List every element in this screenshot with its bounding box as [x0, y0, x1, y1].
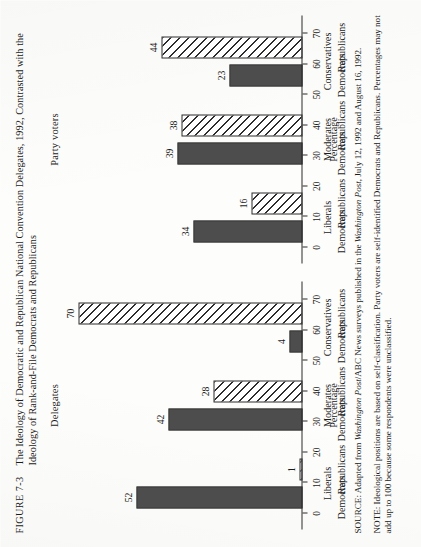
axis-tick	[302, 390, 307, 391]
bar-value-label: 42	[154, 414, 165, 424]
axis-tick-label: 10	[311, 212, 321, 221]
bar-value-label: 44	[147, 42, 158, 52]
bar-democrats-liberals: 52Democrats	[72, 486, 302, 508]
axis-tick	[302, 298, 307, 299]
axis-tick-label: 40	[311, 120, 321, 129]
bar-democrats-moderates: 42Democrats	[72, 408, 302, 430]
bar-value-label: 34	[179, 226, 190, 236]
bar-value-label: 28	[199, 386, 210, 396]
panel-title-party-voters: Party voters	[48, 15, 59, 263]
source-italic-2: Washington Post	[352, 181, 362, 242]
figure-footer: SOURCE: Adapted from Washington Post/ABC…	[352, 13, 401, 533]
bar-rect	[168, 408, 302, 430]
bar-republicans-conservatives: 70Republicans	[72, 302, 302, 324]
source-label: SOURCE:	[352, 495, 362, 533]
bar-rect	[181, 114, 302, 136]
axis-tick-label: 50	[311, 355, 321, 364]
axis-tick-label: 20	[311, 447, 321, 456]
bar-republicans-liberals: 1Republicans	[72, 458, 302, 480]
axis-tick	[302, 481, 307, 482]
panel-title-delegates: Delegates	[48, 281, 59, 529]
bar-value-label: 52	[122, 492, 133, 502]
bar-group-moderates: Moderates39Democrats38Republicans	[72, 106, 302, 172]
source-text-3: , July 12, 1992 and August 16, 1992.	[352, 47, 362, 181]
bar-group-conservatives: Conservatives23Democrats44Republicans	[72, 28, 302, 94]
bar-rect	[251, 192, 302, 214]
figure-note: NOTE: Ideological positions are based on…	[371, 13, 394, 533]
axis-tick-label: 70	[311, 294, 321, 303]
axis-line-party-voters	[301, 15, 302, 263]
axis-tick	[302, 420, 307, 421]
axis-tick-label: 60	[311, 59, 321, 68]
bar-democrats-conservatives: 23Democrats	[72, 64, 302, 86]
bar-value-label: 16	[237, 198, 248, 208]
bar-value-label: 1	[285, 467, 296, 472]
axis-tick-label: 50	[311, 89, 321, 98]
source-text-1: Adapted from	[352, 440, 362, 495]
figure-page: FIGURE 7-3The Ideology of Democratic and…	[0, 0, 421, 547]
axis-title-party-voters: Percentage	[327, 15, 338, 263]
axis-tick	[302, 246, 307, 247]
bar-rect	[177, 142, 302, 164]
plot-party-voters: Liberals34Democrats16RepublicansModerate…	[72, 15, 302, 263]
axis-tick	[302, 215, 307, 216]
bar-rect	[289, 330, 302, 352]
axis-title-delegates: Percentage	[327, 281, 338, 529]
axis-tick-label: 20	[311, 181, 321, 190]
bar-value-label: 70	[64, 308, 75, 318]
axis-tick-label: 60	[311, 325, 321, 334]
axis-tick-label: 30	[311, 151, 321, 160]
axis-tick-label: 70	[311, 28, 321, 37]
bar-group-liberals: Liberals52Democrats1Republicans	[72, 450, 302, 516]
figure-source: SOURCE: Adapted from Washington Post/ABC…	[352, 13, 364, 533]
source-italic-1: Washington Post	[352, 379, 362, 440]
bar-rect	[78, 302, 302, 324]
bar-group-moderates: Moderates42Democrats28Republicans	[72, 372, 302, 438]
bar-democrats-moderates: 39Democrats	[72, 142, 302, 164]
axis-tick	[302, 359, 307, 360]
bar-group-liberals: Liberals34Democrats16Republicans	[72, 184, 302, 250]
bar-value-label: 39	[163, 148, 174, 158]
axis-tick	[302, 124, 307, 125]
bar-value-label: 23	[215, 70, 226, 80]
bar-republicans-moderates: 38Republicans	[72, 114, 302, 136]
axis-tick-label: 0	[311, 245, 321, 250]
bar-rect	[161, 36, 302, 58]
bar-rect	[136, 486, 302, 508]
bar-rect	[193, 220, 302, 242]
panel-party-voters: Party voters Liberals34Democrats16Republ…	[48, 15, 348, 263]
axis-tick	[302, 93, 307, 94]
note-text: Ideological positions are based on self-…	[371, 15, 393, 533]
bar-value-label: 4	[275, 339, 286, 344]
bar-republicans-moderates: 28Republicans	[72, 380, 302, 402]
bar-rect	[229, 64, 302, 86]
axis-tick	[302, 154, 307, 155]
source-text-2: /ABC News surveys published in the	[352, 242, 362, 379]
axis-tick-label: 0	[311, 511, 321, 516]
figure-number: FIGURE 7-3	[13, 476, 24, 533]
figure-caption-text: The Ideology of Democratic and Republica…	[12, 13, 39, 465]
axis-tick-label: 30	[311, 417, 321, 426]
axis-tick-label: 10	[311, 478, 321, 487]
axis-line-delegates	[301, 281, 302, 529]
bar-republicans-liberals: 16Republicans	[72, 192, 302, 214]
plot-delegates: Liberals52Democrats1RepublicansModerates…	[72, 281, 302, 529]
axis-tick	[302, 63, 307, 64]
axis-tick	[302, 329, 307, 330]
bar-republicans-conservatives: 44Republicans	[72, 36, 302, 58]
bar-value-label: 38	[167, 120, 178, 130]
bar-group-conservatives: Conservatives4Democrats70Republicans	[72, 294, 302, 360]
chart-area: Delegates Liberals52Democrats1Republican…	[48, 9, 348, 537]
bar-democrats-conservatives: 4Democrats	[72, 330, 302, 352]
bar-democrats-liberals: 34Democrats	[72, 220, 302, 242]
axis-tick	[302, 32, 307, 33]
axis-tick	[302, 451, 307, 452]
axis-tick	[302, 512, 307, 513]
figure-caption: FIGURE 7-3The Ideology of Democratic and…	[12, 13, 39, 533]
axis-tick-label: 40	[311, 386, 321, 395]
note-label: NOTE:	[371, 506, 381, 533]
bar-rect	[213, 380, 302, 402]
panel-delegates: Delegates Liberals52Democrats1Republican…	[48, 281, 348, 529]
axis-tick	[302, 185, 307, 186]
